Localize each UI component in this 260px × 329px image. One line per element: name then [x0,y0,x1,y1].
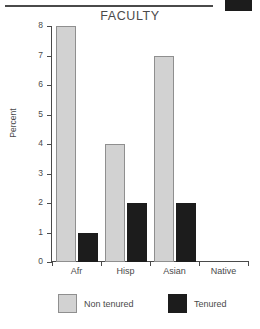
bar-group [101,26,150,262]
y-tick-label: 3 [26,168,43,178]
bar-chart: FACULTY Percent 012345678 AfrHispAsianNa… [0,0,260,329]
bar [176,203,196,262]
bar [127,203,147,262]
y-tick-label: 0 [26,256,43,266]
y-tick-label: 2 [26,197,43,207]
y-tick-label: 1 [26,227,43,237]
bar-group [52,26,101,262]
bar [56,26,76,262]
y-tick-label: 6 [26,79,43,89]
legend-swatch [168,294,187,313]
legend-label: Tenured [194,299,227,309]
bar [78,233,98,263]
bar [105,144,125,262]
y-tick-label: 5 [26,109,43,119]
y-tick-label: 8 [26,20,43,30]
y-tick-label: 4 [26,138,43,148]
y-axis-label: Percent [8,88,18,158]
x-category-label: Asian [150,266,199,276]
bar-group [199,26,248,262]
x-category-label: Afr [52,266,101,276]
bar [154,56,174,263]
chart-legend: Non tenuredTenured [0,294,260,320]
x-category-label: Native [199,266,248,276]
bar-group [150,26,199,262]
legend-swatch [58,294,77,313]
legend-item: Tenured [168,294,227,313]
legend-item: Non tenured [58,294,134,313]
x-category-label: Hisp [101,266,150,276]
plot-area [52,26,248,262]
legend-label: Non tenured [84,299,134,309]
y-tick-label: 7 [26,50,43,60]
x-tick [248,261,249,266]
